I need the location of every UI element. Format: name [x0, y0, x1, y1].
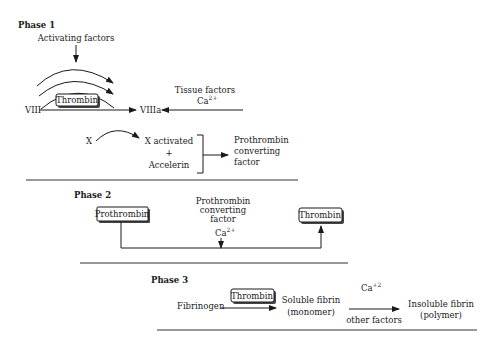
prothrombin-converting-factor-line1: Prothrombin [234, 135, 289, 145]
phase-2: Phase 2 Prothrombin Prothrombin converti… [74, 190, 348, 263]
fibrinogen-label: Fibrinogen [177, 301, 225, 311]
soluble-fibrin-line2: (monomer) [287, 307, 335, 317]
activation-arc-icon [37, 70, 113, 86]
x-activation-arc-icon [96, 131, 139, 141]
ca-label-phase1: Ca2+ [197, 94, 217, 106]
other-factors-label: other factors [346, 315, 402, 325]
prothrombin-box: Prothrombin [95, 207, 150, 223]
svg-text:Thrombin: Thrombin [231, 291, 274, 301]
insoluble-fibrin-line2: (polymer) [420, 310, 462, 320]
phase-1-label: Phase 1 [18, 20, 55, 30]
phase-3-label: Phase 3 [151, 275, 188, 285]
svg-text:Prothrombin: Prothrombin [95, 209, 150, 219]
phase-2-label: Phase 2 [74, 190, 111, 200]
ca-label-phase2: Ca2+ [215, 226, 235, 238]
soluble-fibrin-line1: Soluble fibrin [282, 295, 341, 305]
viii-label: VIII [24, 105, 41, 115]
x-activated-label: X activated [145, 136, 194, 146]
thrombin-box-phase2: Thrombin [299, 208, 344, 224]
activating-factors-label: Activating factors [37, 33, 115, 43]
insoluble-fibrin-line1: Insoluble fibrin [408, 299, 474, 309]
tissue-factors-label: Tissue factors [175, 85, 235, 95]
phase-1: Phase 1 Activating factors VIII Thrombin… [18, 20, 298, 180]
x-label: X [86, 136, 93, 146]
svg-text:Thrombin: Thrombin [299, 210, 342, 220]
phase-3: Phase 3 Fibrinogen Thrombin Soluble fibr… [151, 275, 477, 330]
ca-label-phase3: Ca+2 [361, 281, 382, 293]
prothrombin-converting-factor-line2: converting [234, 146, 281, 156]
prothrombin-converting-factor-line3: factor [234, 157, 261, 167]
coagulation-diagram: Phase 1 Activating factors VIII Thrombin… [0, 0, 492, 346]
bracket-icon [197, 135, 203, 173]
accelerin-label: Accelerin [148, 160, 190, 170]
svg-text:Thrombin: Thrombin [56, 95, 99, 105]
thrombin-box-phase1: Thrombin [56, 94, 100, 108]
thrombin-box-phase3: Thrombin [231, 289, 276, 304]
viiia-label: VIIIa [139, 105, 161, 115]
converter-line3: factor [210, 214, 237, 224]
plus-label: + [165, 148, 172, 158]
